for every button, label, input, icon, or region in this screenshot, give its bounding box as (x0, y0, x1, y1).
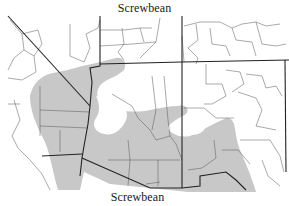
range-map (0, 14, 289, 192)
map-title-bottom: Screwbean (0, 190, 282, 205)
